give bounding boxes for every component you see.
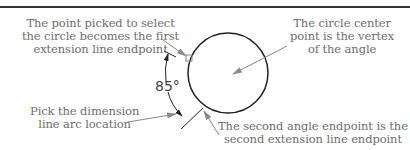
leader-second-point [204,111,219,135]
callout-center-vertex: The circle center point is the vertex of… [290,17,394,56]
circle [188,33,268,113]
dimension-arc-lower [168,92,182,116]
callout-first-point: The point picked to select the circle be… [22,17,179,56]
callout-second-point: The second angle endpoint is the second … [218,120,408,146]
second-extension-line [181,108,203,129]
dimension-value: 85° [155,78,180,94]
callout-arc-location: Pick the dimension line arc location [30,105,139,131]
